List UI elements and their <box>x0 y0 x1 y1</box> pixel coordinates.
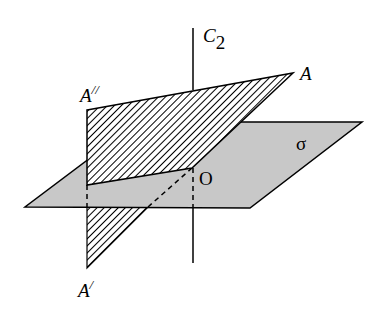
label-origin: O <box>199 168 213 189</box>
symmetry-planes-diagram: C2 A A// A/ O σ <box>0 0 382 319</box>
label-sigma: σ <box>296 133 306 154</box>
label-c2: C2 <box>203 25 225 53</box>
label-a-double-prime: A// <box>78 82 100 106</box>
label-a: A <box>298 63 312 84</box>
label-a-prime: A/ <box>76 277 95 301</box>
mirror-plane-lower <box>87 207 148 268</box>
